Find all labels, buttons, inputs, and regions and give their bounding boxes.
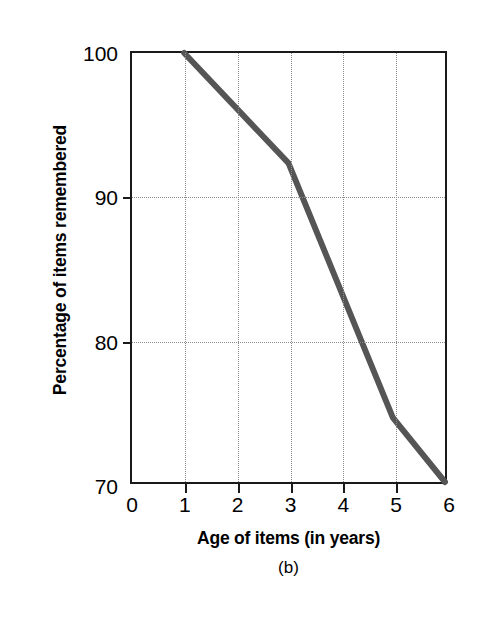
x-axis-tick: [396, 482, 398, 493]
x-axis-tick-label: 2: [232, 494, 244, 515]
y-axis-tick-label: 90: [95, 187, 118, 208]
x-axis-tick: [291, 482, 293, 493]
gridline-vertical: [185, 53, 186, 482]
y-axis-tick-label: 100: [83, 43, 118, 64]
y-axis-tick-label: 70: [95, 476, 118, 497]
gridline-horizontal: [132, 342, 445, 343]
x-axis-tick-label: 3: [285, 494, 297, 515]
x-axis-tick: [343, 482, 345, 493]
x-axis-title: Age of items (in years): [130, 528, 447, 549]
gridline-horizontal: [132, 197, 445, 198]
data-series-line: [184, 53, 445, 482]
figure-panel-b: Percentage of items remembered 708090100…: [0, 0, 477, 618]
x-axis-tick-label: 5: [390, 494, 402, 515]
x-axis-tick: [238, 482, 240, 493]
x-axis-tick-label: 6: [443, 494, 455, 515]
gridline-vertical: [238, 53, 239, 482]
x-axis-tick: [185, 482, 187, 493]
y-axis-tick: [123, 197, 132, 199]
gridline-vertical: [396, 53, 397, 482]
y-axis-title: Percentage of items remembered: [40, 20, 80, 500]
x-axis-tick-label: 0: [126, 494, 138, 515]
gridline-vertical: [291, 53, 292, 482]
y-axis-tick: [123, 342, 132, 344]
x-axis-tick-label: 4: [337, 494, 349, 515]
y-axis-tick-label: 80: [95, 331, 118, 352]
x-axis-tick-label: 1: [179, 494, 191, 515]
data-line-svg: [132, 53, 445, 482]
panel-caption: (b): [130, 558, 447, 578]
plot-area: 7080901000123456: [130, 51, 447, 484]
gridline-vertical: [343, 53, 344, 482]
